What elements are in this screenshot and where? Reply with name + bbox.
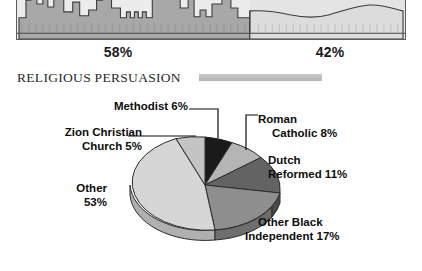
grass-texture [258,24,399,32]
pie-label-dutch-reformed-line2: Reformed 11% [268,168,418,182]
urban-rural-illustration [17,0,405,39]
pie-label-dutch-reformed-line1: Dutch [268,154,418,168]
pie-label-zion-christian-line2: Church 5% [12,140,142,154]
pie-label-other-line2: 53% [22,196,107,210]
religious-persuasion-pie-chart: Methodist 6% Zion Christian Church 5% Ot… [0,92,422,271]
pie-label-methodist-line1: Methodist 6% [64,100,188,114]
pie-label-other-black-line2: Independent 17% [245,230,418,244]
pie-label-zion-christian-line1: Zion Christian [12,126,142,140]
leader-line-methodist [189,109,218,138]
pie-label-other-line1: Other [22,182,107,196]
pie-label-roman-catholic-line2: Catholic 8% [258,127,408,141]
pie-label-zion-christian-church: Zion Christian Church 5% [12,126,142,153]
pie-label-other: Other 53% [22,182,107,209]
pie-label-other-black-independent: Other Black Independent 17% [258,216,418,243]
pie-label-roman-catholic: Roman Catholic 8% [258,113,408,140]
section-heading-rule [199,74,322,81]
urban-rural-population-panel [16,0,406,40]
leader-line-roman-catholic [246,115,258,150]
urban-percent-label: 58% [58,44,178,60]
section-heading: RELIGIOUS PERSUASION [17,70,407,88]
pie-label-methodist: Methodist 6% [64,100,188,114]
infographic-page: 58% 42% RELIGIOUS PERSUASION [0,0,422,271]
pie-label-other-black-line1: Other Black [258,216,418,230]
pie-label-dutch-reformed: Dutch Reformed 11% [268,154,418,181]
pie-label-roman-catholic-line1: Roman [258,113,408,127]
rural-percent-label: 42% [270,44,390,60]
section-heading-text: RELIGIOUS PERSUASION [17,70,181,86]
